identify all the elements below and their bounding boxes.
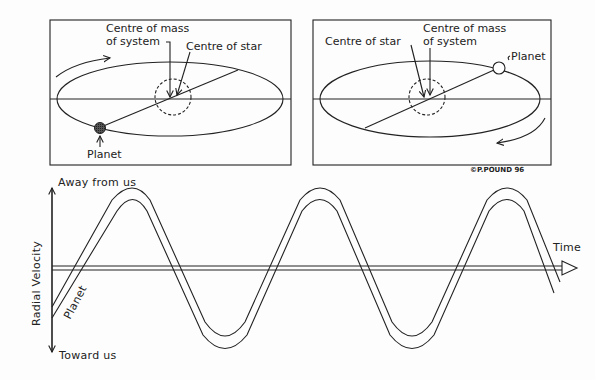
right-orbit-direction-arrow-icon [497,118,545,143]
planet-velocity-curve-upper [52,188,560,336]
left-com-label-line1: Centre of mass [106,22,190,35]
planet-velocity-curve-lower [52,200,554,349]
right-orbit-panel: Centre of mass of system Centre of star … [313,20,551,165]
copyright-text: ©P.POUND 96 [470,166,524,174]
left-orbit-direction-arrow-icon [56,58,110,77]
x-axis-label: Time [552,241,581,254]
right-planet-label: Planet [511,50,546,63]
right-star-wobble-circle [409,79,445,115]
left-planet-label: Planet [87,148,122,161]
right-planet-pointer-icon [508,56,510,60]
left-com-label-line2: of system [106,35,160,48]
right-com-label-line2: of system [423,35,477,48]
radial-velocity-diagram: Centre of mass of system Centre of star … [0,0,595,380]
radial-velocity-graph: Away from us Toward us Radial Velocity T… [30,176,581,362]
time-axis-arrowhead-icon [562,261,577,275]
right-star-centre-label: Centre of star [325,35,401,48]
right-planet-icon [493,62,505,74]
y-axis-top-label: Away from us [58,176,136,189]
left-star-centre-pointer-icon [177,52,190,95]
right-com-label-line1: Centre of mass [423,22,507,35]
right-star-centre-pointer-icon [411,45,424,97]
y-axis-label: Radial Velocity [30,241,43,326]
left-star-centre-label: Centre of star [186,40,262,53]
left-com-pointer-icon [166,42,170,97]
left-orbit-panel: Centre of mass of system Centre of star … [50,20,291,165]
left-planet-icon [95,123,106,134]
curve-planet-label: Planet [61,283,90,321]
y-axis-bottom-label: Toward us [58,349,117,362]
